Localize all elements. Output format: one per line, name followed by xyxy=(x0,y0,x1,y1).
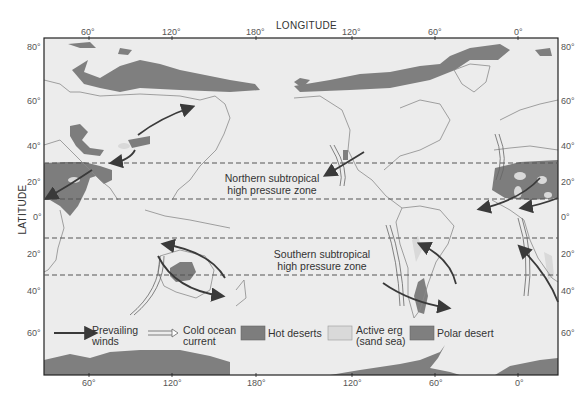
right-tick-label: 20° xyxy=(561,249,575,259)
top-tick-label: 60° xyxy=(428,27,442,37)
left-tick-label: 60° xyxy=(27,328,41,338)
southern-zone-line2: high pressure zone xyxy=(262,260,382,272)
southern-zone-label: Southern subtropical high pressure zone xyxy=(262,248,382,272)
legend-polar-label: Polar desert xyxy=(437,328,494,339)
bottom-tick-label: 120° xyxy=(343,378,362,388)
top-tick-label: 120° xyxy=(342,27,361,37)
right-tick-label: 40° xyxy=(561,141,575,151)
right-tick-label: 0° xyxy=(561,212,570,222)
legend-hot-swatch xyxy=(241,326,265,340)
northern-zone-line2: high pressure zone xyxy=(212,184,332,196)
legend-erg-label: Active erg (sand sea) xyxy=(356,325,406,347)
legend-winds-line2: winds xyxy=(92,336,138,347)
right-tick-label: 80° xyxy=(561,42,575,52)
southern-zone-line1: Southern subtropical xyxy=(262,248,382,260)
world-desert-map xyxy=(0,0,588,400)
left-tick-label: 20° xyxy=(27,249,41,259)
top-tick-label: 180° xyxy=(246,27,265,37)
x-axis-title: LONGITUDE xyxy=(276,20,337,31)
legend-winds-label: Prevailing winds xyxy=(92,325,138,347)
legend-erg-line2: (sand sea) xyxy=(356,336,406,347)
legend-current-label: Cold ocean current xyxy=(183,325,236,347)
top-tick-label: 0° xyxy=(514,27,523,37)
legend-polar-swatch xyxy=(410,326,434,340)
northern-zone-label: Northern subtropical high pressure zone xyxy=(212,172,332,196)
left-tick-label: 20° xyxy=(27,177,41,187)
right-tick-label: 40° xyxy=(561,286,575,296)
bottom-tick-label: 60° xyxy=(429,378,443,388)
right-tick-label: 20° xyxy=(561,177,575,187)
left-tick-label: 0° xyxy=(33,212,42,222)
top-tick-label: 120° xyxy=(162,27,181,37)
left-tick-label: 40° xyxy=(27,141,41,151)
northern-zone-line1: Northern subtropical xyxy=(212,172,332,184)
left-tick-label: 40° xyxy=(27,286,41,296)
bottom-tick-label: 0° xyxy=(515,378,524,388)
bottom-tick-label: 60° xyxy=(82,378,96,388)
right-tick-label: 60° xyxy=(561,96,575,106)
top-tick-label: 60° xyxy=(81,27,95,37)
left-tick-label: 60° xyxy=(27,96,41,106)
bottom-tick-label: 120° xyxy=(163,378,182,388)
bottom-tick-label: 180° xyxy=(247,378,266,388)
y-axis-title: LATITUDE xyxy=(17,180,28,240)
left-tick-label: 80° xyxy=(27,42,41,52)
legend-erg-swatch xyxy=(328,326,352,340)
legend-current-line2: current xyxy=(183,336,236,347)
legend-hot-label: Hot deserts xyxy=(268,328,322,339)
right-tick-label: 60° xyxy=(561,328,575,338)
